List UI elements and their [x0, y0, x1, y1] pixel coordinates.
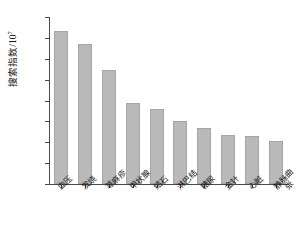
y-axis-tick: [45, 121, 49, 122]
plot-area: [49, 17, 288, 184]
y-axis-tick: [45, 38, 49, 39]
y-axis-line: [49, 17, 50, 184]
y-axis-title: 搜索指数/107: [5, 3, 19, 115]
y-axis-tick: [45, 80, 49, 81]
bar-chart: 搜索指数/107 0.00.51.01.52.02.53.03.54.0 血压发…: [0, 0, 300, 237]
y-axis-tick: [45, 101, 49, 102]
y-axis-tick: [45, 184, 49, 185]
x-axis-tick-labels: 血压发烧荨麻疹甲状腺结石淋巴结糖尿金针心脏静脉曲张: [49, 186, 300, 237]
bar: [150, 109, 164, 184]
y-axis-title-exponent: 7: [6, 31, 13, 34]
bar: [126, 103, 140, 184]
y-axis-tick: [45, 59, 49, 60]
y-axis-tick: [45, 163, 49, 164]
y-axis-title-text: 搜索指数/10: [8, 35, 18, 87]
y-axis-tick: [45, 142, 49, 143]
bar: [54, 31, 68, 184]
y-axis-tick: [45, 17, 49, 18]
bar: [78, 44, 92, 184]
bar: [102, 70, 116, 184]
